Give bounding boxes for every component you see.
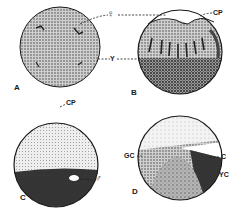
panel-label-d: D (132, 188, 138, 196)
cortical-plasm-label-c: CP (66, 99, 76, 106)
cortical-plasm-label-b: CP (213, 9, 223, 16)
yolk-label: Y (110, 55, 115, 62)
male-pronucleus-label: ♂ (95, 174, 102, 183)
panel-label-a: A (14, 84, 20, 92)
embryo-a (20, 7, 100, 87)
embryo-d (138, 116, 222, 205)
embryo-c (14, 123, 98, 210)
embryo-b (138, 10, 222, 98)
female-pronucleus-label: ♀ (107, 9, 115, 19)
crescent-label: C (221, 153, 226, 160)
panel-label-b: B (131, 89, 137, 97)
embryo-diagram (0, 0, 242, 212)
grey-crescent-label: GC (124, 152, 135, 159)
yellow-crescent-label: YC (219, 171, 229, 178)
panel-label-c: C (20, 194, 26, 202)
